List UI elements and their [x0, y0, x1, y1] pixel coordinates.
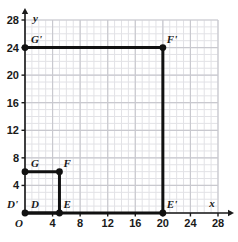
vertex-label: E': [166, 198, 177, 210]
vertex-label: G': [31, 33, 42, 45]
x-tick-label: 8: [77, 217, 83, 229]
vertex-point: [159, 44, 166, 51]
vertex-point: [22, 168, 29, 175]
x-tick-label: 12: [102, 217, 114, 229]
y-tick-label: 28: [7, 14, 19, 26]
coordinate-plane-figure: O481216202428481216202428yxDEFGD'E'F'G': [0, 0, 238, 242]
vertex-point: [22, 210, 29, 217]
x-tick-label: 4: [50, 217, 57, 229]
vertex-point: [56, 210, 63, 217]
vertex-label: F: [62, 157, 71, 169]
y-tick-label: 12: [7, 124, 19, 136]
vertex-point: [56, 168, 63, 175]
x-tick-label: 28: [212, 217, 224, 229]
vertex-label: E: [62, 198, 70, 210]
graph-svg: O481216202428481216202428yxDEFGD'E'F'G': [0, 0, 238, 242]
vertex-label: D': [6, 198, 18, 210]
x-axis-name: x: [208, 197, 215, 209]
x-tick-label: 16: [129, 217, 141, 229]
x-tick-label: 20: [157, 217, 169, 229]
vertex-point: [159, 210, 166, 217]
vertex-point: [22, 44, 29, 51]
x-tick-label: 24: [184, 217, 197, 229]
y-tick-label: 4: [13, 179, 20, 191]
vertex-label: D: [30, 198, 39, 210]
vertex-label: F': [166, 33, 177, 45]
vertex-label: G: [31, 157, 39, 169]
origin-label: O: [15, 217, 23, 229]
y-tick-label: 20: [7, 69, 19, 81]
y-tick-label: 8: [13, 152, 19, 164]
y-tick-label: 16: [7, 97, 19, 109]
y-tick-label: 24: [7, 42, 20, 54]
y-axis-name: y: [31, 12, 38, 24]
